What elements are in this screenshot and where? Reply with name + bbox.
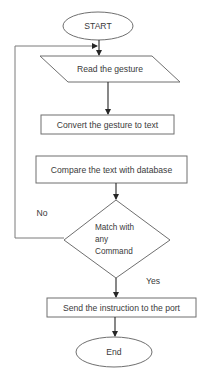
send-label: Send the instruction to the port xyxy=(63,303,181,313)
convert-node: Convert the gesture to text xyxy=(41,115,174,134)
edge-label-no: No xyxy=(37,208,48,218)
read-gesture-node: Read the gesture xyxy=(40,56,180,82)
send-node: Send the instruction to the port xyxy=(47,298,196,317)
compare-node: Compare the text with database xyxy=(36,156,187,183)
flowchart: START Read the gesture Convert the gestu… xyxy=(0,0,212,384)
start-node: START xyxy=(63,12,133,40)
compare-label: Compare the text with database xyxy=(51,165,173,175)
decision-label-line-3: Command xyxy=(95,247,133,256)
decision-label-line-2: any xyxy=(95,235,109,244)
convert-label: Convert the gesture to text xyxy=(57,120,159,130)
end-label: End xyxy=(106,347,122,357)
start-label: START xyxy=(84,21,112,31)
read-gesture-label: Read the gesture xyxy=(77,64,143,74)
decision-label-line-1: Match with xyxy=(95,223,135,232)
edge-label-yes: Yes xyxy=(146,276,160,286)
decision-node: Match with any Command xyxy=(64,200,170,278)
end-node: End xyxy=(76,337,152,367)
